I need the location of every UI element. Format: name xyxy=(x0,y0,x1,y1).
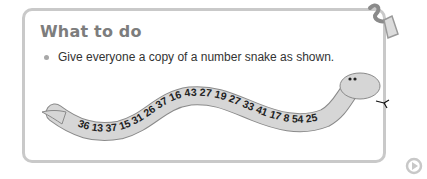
glue-tube-icon xyxy=(362,0,402,50)
play-next-icon xyxy=(412,162,418,170)
next-button[interactable] xyxy=(405,157,423,175)
